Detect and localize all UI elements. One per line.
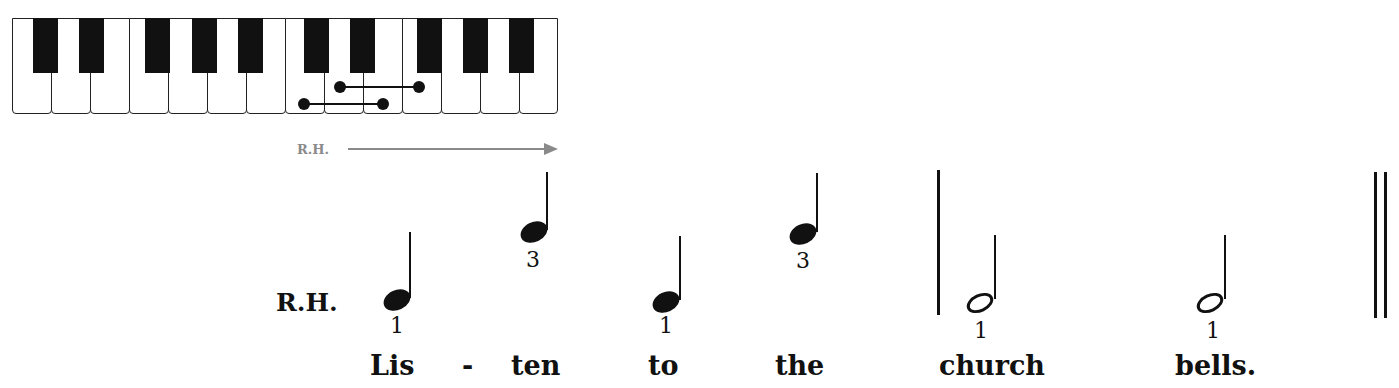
direction-label: R.H. xyxy=(297,142,329,157)
finger-dot-icon xyxy=(298,98,310,110)
black-key xyxy=(79,18,104,73)
fingering-connector-upper xyxy=(340,86,419,88)
black-key xyxy=(33,18,58,73)
half-note-head xyxy=(964,289,997,317)
half-note-head xyxy=(1194,289,1227,317)
right-arrow-icon xyxy=(348,148,546,150)
note-stem xyxy=(546,172,548,230)
finger-number: 1 xyxy=(651,313,681,338)
finger-number: 1 xyxy=(382,313,412,338)
finger-dot-icon xyxy=(377,98,389,110)
note-stem xyxy=(994,235,996,299)
lyric-word: the xyxy=(775,350,824,381)
arrow-head-icon xyxy=(544,143,558,155)
black-key xyxy=(145,18,170,73)
lyric-word: to xyxy=(648,350,678,381)
black-key xyxy=(192,18,217,73)
black-key xyxy=(509,18,534,73)
finger-number: 1 xyxy=(966,318,996,343)
hand-label: R.H. xyxy=(276,288,338,317)
piano-keyboard-diagram xyxy=(12,18,558,116)
black-key xyxy=(417,18,442,73)
black-key xyxy=(304,18,329,73)
finger-dot-icon xyxy=(334,81,346,93)
finger-dot-icon xyxy=(413,81,425,93)
quarter-note-head xyxy=(786,219,820,249)
note-stem xyxy=(816,173,818,232)
note-stem xyxy=(409,232,411,298)
note-stem xyxy=(679,236,681,300)
bar-line xyxy=(937,170,940,315)
lyric-hyphen: - xyxy=(462,350,473,381)
double-bar-line xyxy=(1374,172,1377,318)
finger-number: 3 xyxy=(518,247,548,272)
note-stem xyxy=(1224,235,1226,299)
double-bar-line xyxy=(1384,172,1387,318)
black-key xyxy=(463,18,488,73)
lyric-word: ten xyxy=(511,350,560,381)
black-key xyxy=(238,18,263,73)
black-key xyxy=(350,18,375,73)
lyric-word: bells. xyxy=(1175,350,1256,381)
finger-number: 1 xyxy=(1198,318,1228,343)
fingering-connector-lower xyxy=(304,103,383,105)
lyric-word: church xyxy=(939,350,1045,381)
lyric-word: Lis xyxy=(370,350,414,381)
finger-number: 3 xyxy=(788,248,818,273)
